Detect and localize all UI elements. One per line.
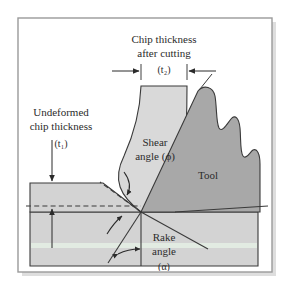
workpiece-lower-block: [30, 212, 258, 266]
orthogonal-cutting-diagram: Chip thickness after cutting (t₂) Undefo…: [0, 0, 289, 297]
undeformed-label-line2: chip thickness: [30, 120, 93, 132]
rake-angle-label-line2: angle: [152, 245, 176, 257]
tool-label: Tool: [198, 169, 218, 181]
chip-thickness-symbol: (t₂): [158, 64, 171, 76]
shear-angle-label-line2: angle (ϕ): [135, 150, 175, 163]
chip-thickness-label-line1: Chip thickness: [131, 33, 196, 45]
undeformed-symbol: (t₁): [55, 138, 68, 150]
undeformed-label-line1: Undeformed: [33, 106, 89, 118]
tint-band: [31, 243, 257, 248]
chip-thickness-label-line2: after cutting: [137, 47, 191, 59]
rake-angle-label-line1: Rake: [153, 231, 176, 243]
cutting-diagram-figure: Chip thickness after cutting (t₂) Undefo…: [0, 0, 289, 297]
shear-angle-label-line1: Shear: [142, 136, 167, 148]
